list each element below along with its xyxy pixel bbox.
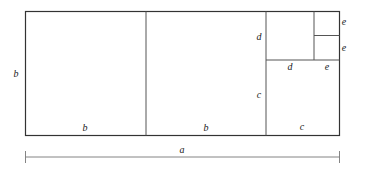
label-square2-b: b [204,122,209,133]
outer-rectangle [26,12,340,136]
label-bottom-e: e [325,61,330,72]
label-small-e-bottom: e [342,42,347,53]
label-square4-d-bottom: d [288,61,294,72]
label-left-b: b [14,68,19,79]
label-square4-d-left: d [257,31,263,42]
label-small-e-top: e [342,16,347,27]
label-square3-c-left: c [257,89,262,100]
label-square1-b: b [83,122,88,133]
label-square3-c-bottom: c [300,121,305,132]
diagram-canvas: b b b c c d d e e e a [0,0,365,177]
label-dimension-a: a [180,144,185,155]
